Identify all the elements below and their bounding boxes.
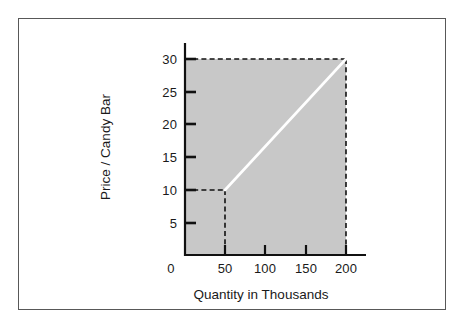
y-tick-label-30: 30 xyxy=(152,52,177,67)
x-tick-label-50: 50 xyxy=(218,261,233,276)
y-tick-label-15: 15 xyxy=(152,150,177,165)
x-tick-label-100: 100 xyxy=(254,261,276,276)
chart-canvas xyxy=(0,0,469,327)
shaded-region-producer-surplus xyxy=(185,59,346,255)
x-tick-label-200: 200 xyxy=(335,261,357,276)
x-tick-label-0: 0 xyxy=(167,261,174,276)
y-tick-label-10: 10 xyxy=(152,183,177,198)
y-tick-label-5: 5 xyxy=(152,216,177,231)
x-axis-title: Quantity in Thousands xyxy=(194,287,329,302)
y-tick-label-25: 25 xyxy=(152,85,177,100)
y-axis-title: Price / Candy Bar xyxy=(98,94,113,200)
y-tick-label-20: 20 xyxy=(152,117,177,132)
supply-curve-chart: 30 25 20 15 10 5 0 50 100 150 200 Quanti… xyxy=(0,0,469,327)
x-tick-label-150: 150 xyxy=(295,261,317,276)
